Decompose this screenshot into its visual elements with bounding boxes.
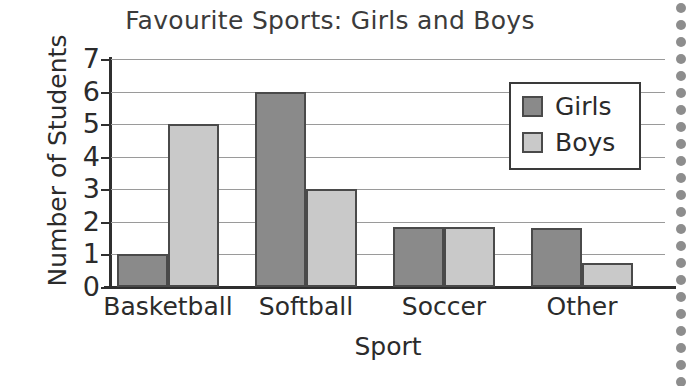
y-axis-title: Number of Students (43, 31, 72, 291)
y-tick-label-4: 4 (72, 143, 100, 170)
legend-label-girls: Girls (555, 94, 612, 119)
binding-dot (676, 71, 686, 81)
legend-label-boys: Boys (555, 130, 615, 155)
binding-dot (676, 275, 686, 285)
gridline-0 (111, 287, 665, 288)
binding-dot (676, 156, 686, 166)
bar-soccer-boys (444, 227, 495, 287)
bar-softball-boys (306, 189, 357, 287)
spiral-binding-holes (676, 0, 690, 386)
legend: Girls Boys (509, 82, 641, 170)
binding-dot (676, 54, 686, 64)
bar-basketball-girls (117, 254, 168, 287)
binding-dot (676, 122, 686, 132)
binding-dot (676, 190, 686, 200)
chart-screenshot: Favourite Sports: Girls and Boys Number … (0, 0, 699, 386)
bar-basketball-boys (168, 124, 219, 287)
binding-dot (676, 241, 686, 251)
y-tick-label-1: 1 (72, 240, 100, 267)
binding-dot (676, 207, 686, 217)
binding-dot (676, 3, 686, 13)
x-axis-title: Sport (111, 332, 665, 361)
binding-dot (676, 343, 686, 353)
y-tick-label-6: 6 (72, 78, 100, 105)
binding-dot (676, 20, 686, 30)
binding-dot (676, 309, 686, 319)
gridline-7 (111, 59, 665, 60)
legend-swatch-boys-icon (522, 132, 543, 153)
legend-swatch-girls-icon (522, 96, 543, 117)
binding-dot (676, 326, 686, 336)
bar-soccer-girls (393, 227, 444, 287)
x-label-other: Other (492, 292, 672, 321)
binding-dot (676, 173, 686, 183)
binding-dot (676, 292, 686, 302)
binding-dot (676, 224, 686, 234)
binding-dot (676, 88, 686, 98)
y-tick-label-5: 5 (72, 110, 100, 137)
legend-entry-girls: Girls (522, 94, 612, 119)
binding-dot (676, 139, 686, 149)
binding-dot (676, 360, 686, 370)
y-tick-label-3: 3 (72, 175, 100, 202)
binding-dot (676, 258, 686, 268)
y-tick-label-7: 7 (72, 45, 100, 72)
legend-entry-boys: Boys (522, 130, 615, 155)
binding-dot (676, 105, 686, 115)
y-tick-label-2: 2 (72, 208, 100, 235)
chart-title: Favourite Sports: Girls and Boys (0, 6, 660, 35)
bar-other-boys (582, 263, 633, 287)
binding-dot (676, 377, 686, 386)
binding-dot (676, 37, 686, 47)
bar-softball-girls (255, 92, 306, 287)
bar-other-girls (531, 228, 582, 287)
